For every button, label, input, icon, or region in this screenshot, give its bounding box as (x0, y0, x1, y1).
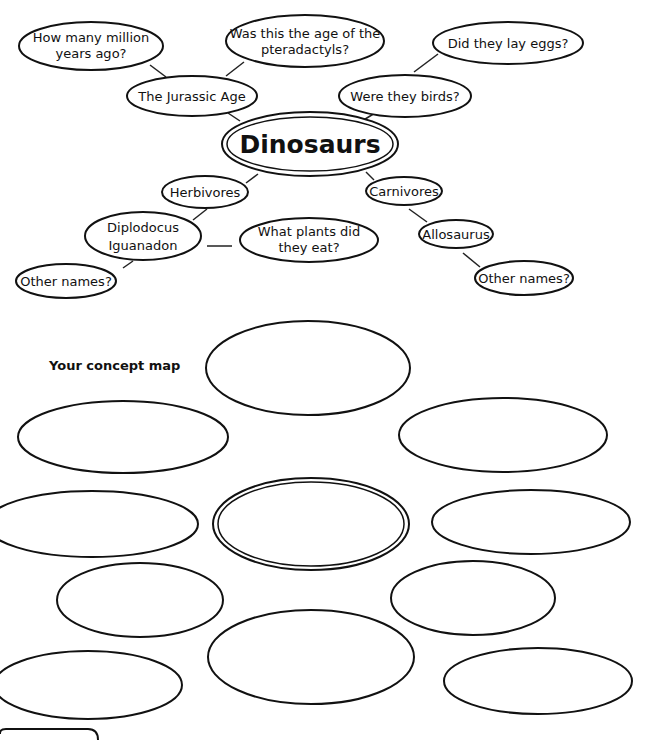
node-allosaurus: Allosaurus (419, 220, 493, 248)
svg-text:Herbivores: Herbivores (170, 185, 241, 200)
blank-ellipse-mid-left[interactable] (0, 491, 198, 557)
blank-ellipse-top[interactable] (206, 321, 410, 415)
svg-text:Was this the age of the: Was this the age of the (230, 26, 381, 41)
blank-ellipse-mid-right[interactable] (432, 490, 630, 554)
svg-text:pteradactyls?: pteradactyls? (261, 42, 349, 57)
concept-map-canvas: How many million years ago? Was this the… (0, 0, 647, 740)
svg-text:Did they lay eggs?: Did they lay eggs? (448, 36, 569, 51)
svg-text:Were they birds?: Were they birds? (350, 89, 459, 104)
svg-text:Diplodocus: Diplodocus (107, 220, 179, 235)
central-node-dinosaurs: Dinosaurs (222, 112, 398, 176)
svg-text:they eat?: they eat? (278, 240, 339, 255)
node-lay-eggs: Did they lay eggs? (433, 22, 583, 64)
your-concept-map-label: Your concept map (48, 358, 180, 373)
blank-ellipse-upper-left[interactable] (18, 401, 228, 473)
node-herbivores: Herbivores (162, 176, 248, 208)
blank-ellipse-lower-right[interactable] (391, 561, 555, 635)
partial-box (0, 729, 98, 740)
node-pteradactyls: Was this the age of the pteradactyls? (226, 15, 384, 67)
blank-ellipse-bottom-center[interactable] (208, 610, 414, 704)
node-million-years: How many million years ago? (19, 22, 163, 70)
node-diplodocus: Diplodocus Iguanadon (85, 212, 201, 260)
node-other-names-right: Other names? (475, 261, 573, 295)
svg-text:Other names?: Other names? (478, 271, 570, 286)
node-carnivores: Carnivores (366, 177, 442, 205)
svg-text:Carnivores: Carnivores (369, 184, 439, 199)
svg-text:The Jurassic Age: The Jurassic Age (137, 89, 245, 104)
svg-text:How many million: How many million (33, 30, 150, 45)
blank-ellipse-lower-left[interactable] (57, 563, 223, 637)
blank-ellipse-bottom-right[interactable] (444, 648, 632, 714)
node-jurassic: The Jurassic Age (127, 76, 257, 116)
node-plants: What plants did they eat? (240, 218, 378, 262)
blank-ellipses (0, 321, 632, 719)
svg-text:Dinosaurs: Dinosaurs (239, 130, 380, 159)
blank-ellipse-center[interactable] (213, 478, 409, 570)
svg-text:Other names?: Other names? (20, 274, 112, 289)
svg-text:What plants did: What plants did (258, 224, 360, 239)
svg-text:years ago?: years ago? (56, 46, 127, 61)
blank-ellipse-upper-right[interactable] (399, 398, 607, 472)
node-other-names-left: Other names? (16, 264, 116, 298)
svg-text:Allosaurus: Allosaurus (422, 227, 490, 242)
node-birds: Were they birds? (339, 75, 471, 117)
blank-ellipse-bottom-left[interactable] (0, 651, 182, 719)
svg-text:Iguanadon: Iguanadon (109, 238, 178, 253)
